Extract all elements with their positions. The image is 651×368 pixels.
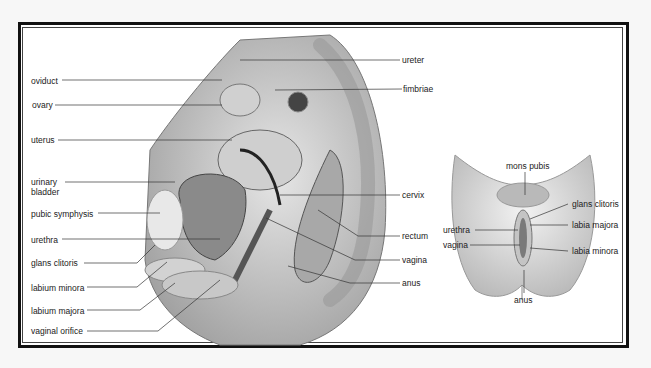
sagittal-section — [145, 35, 386, 345]
label-oviduct: oviduct — [31, 76, 58, 86]
label-uterus: uterus — [31, 135, 55, 145]
label-ext-anus: anus — [514, 295, 532, 305]
label-glans-clitoris: glans clitoris — [31, 258, 78, 268]
label-fimbriae: fimbriae — [403, 84, 433, 94]
label-bladder: bladder — [31, 187, 59, 197]
label-labium-majora: labium majora — [31, 306, 84, 316]
label-vaginal-orifice: vaginal orifice — [31, 326, 83, 336]
label-ureter: ureter — [402, 55, 424, 65]
label-ext-mons-pubis: mons pubis — [506, 161, 549, 171]
label-ovary: ovary — [32, 100, 53, 110]
label-rectum: rectum — [402, 231, 428, 241]
anatomy-illustration — [0, 0, 651, 368]
label-labium-minora: labium minora — [31, 283, 84, 293]
label-ext-glans-clitoris: glans clitoris — [572, 199, 619, 209]
label-pubic-symphysis: pubic symphysis — [31, 209, 93, 219]
label-ext-labia-minora: labia minora — [572, 246, 618, 256]
label-urinary: urinary — [31, 177, 57, 187]
label-ext-labia-majora: labia majora — [572, 220, 618, 230]
label-ext-urethra: urethra — [443, 225, 470, 235]
label-ext-vagina: vagina — [443, 240, 468, 250]
label-urethra: urethra — [31, 235, 58, 245]
label-vagina: vagina — [402, 255, 427, 265]
label-anus: anus — [402, 278, 420, 288]
label-cervix: cervix — [402, 190, 424, 200]
